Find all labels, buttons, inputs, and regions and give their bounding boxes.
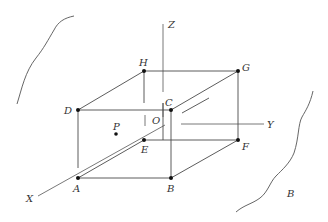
boundary-curve-upper-left bbox=[17, 16, 74, 104]
edge-DH bbox=[78, 71, 144, 110]
label-D: D bbox=[63, 105, 72, 116]
edge-BF bbox=[171, 140, 238, 178]
label-P: P bbox=[112, 121, 120, 132]
edge-CG bbox=[171, 71, 238, 110]
label-C: C bbox=[165, 97, 173, 108]
label-O: O bbox=[152, 115, 160, 126]
label-A: A bbox=[72, 183, 80, 194]
vertex-H bbox=[142, 69, 146, 73]
vertex-A bbox=[76, 176, 80, 180]
edge-AE bbox=[78, 140, 144, 178]
label-Y: Y bbox=[267, 119, 275, 130]
vertex-F bbox=[236, 138, 240, 142]
vertex-E bbox=[142, 138, 146, 142]
label-F: F bbox=[241, 141, 250, 152]
label-Z: Z bbox=[167, 19, 176, 30]
label-E: E bbox=[140, 144, 149, 155]
vertex-D bbox=[76, 108, 80, 112]
vertex-G bbox=[236, 69, 240, 73]
label-region-B: B bbox=[286, 188, 294, 199]
edge-CG-parallel bbox=[182, 98, 209, 113]
label-G: G bbox=[242, 62, 250, 73]
label-B: B bbox=[166, 183, 174, 194]
vertex-C bbox=[169, 108, 173, 112]
label-H: H bbox=[138, 57, 148, 68]
box-diagram: Z Y X O A B C D E F G H P B bbox=[0, 0, 328, 222]
x-axis bbox=[38, 125, 165, 196]
point-P bbox=[114, 132, 118, 136]
label-X: X bbox=[25, 193, 34, 204]
vertex-B bbox=[169, 176, 173, 180]
